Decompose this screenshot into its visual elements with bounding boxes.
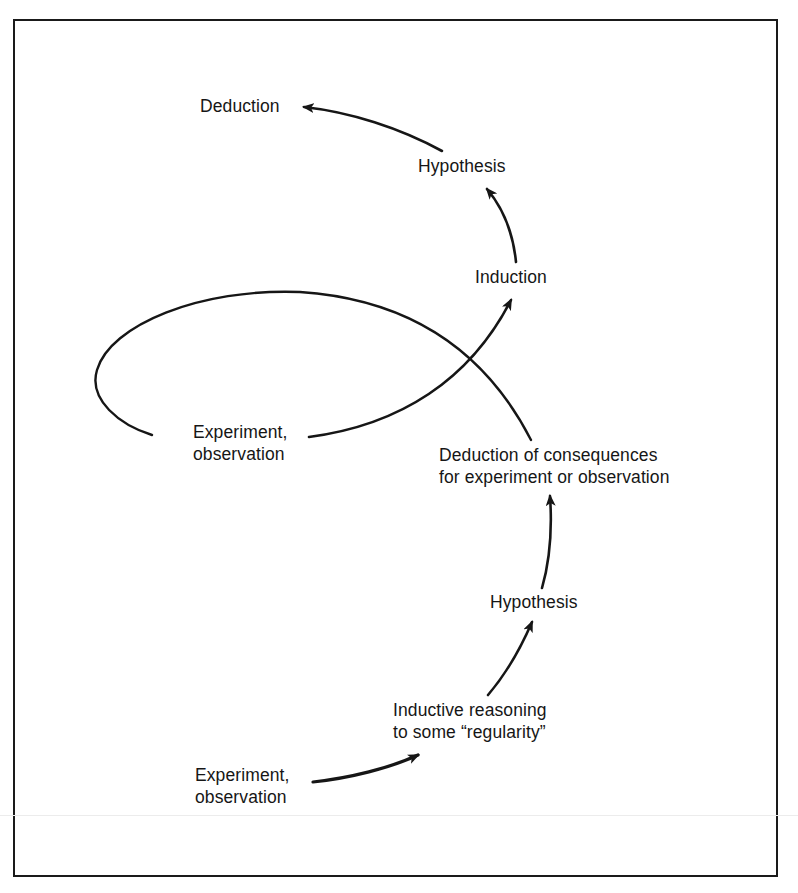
diagram-canvas (0, 0, 798, 893)
loop-deduction-to-experiment (95, 292, 531, 440)
node-label-line-2: observation (195, 786, 289, 808)
node-label: Hypothesis (490, 591, 578, 613)
node-label-line-1: Experiment, (195, 764, 289, 786)
arrow-experiment-to-inductive (313, 755, 418, 782)
node-label-line-1: Experiment, (193, 421, 287, 443)
node-label-line-2: for experiment or observation (439, 466, 670, 488)
node-label: Deduction (200, 95, 280, 117)
node-inductive-reasoning: Inductive reasoning to some “regularity” (393, 699, 547, 743)
node-hypothesis-low: Hypothesis (490, 591, 578, 613)
node-label-line-1: Deduction of consequences (439, 444, 670, 466)
arrow-induction-to-hypothesis (487, 189, 516, 262)
arrow-hypothesis-to-deduction-consequences (542, 496, 551, 588)
node-label-line-1: Inductive reasoning (393, 699, 547, 721)
node-label-line-2: to some “regularity” (393, 721, 547, 743)
node-deduction-consequences: Deduction of consequences for experiment… (439, 444, 670, 488)
node-label: Induction (475, 266, 547, 288)
arrow-hypothesis-to-deduction (304, 107, 442, 151)
node-deduction-top: Deduction (200, 95, 280, 117)
node-hypothesis-top: Hypothesis (418, 155, 506, 177)
node-experiment-low: Experiment, observation (195, 764, 289, 808)
node-experiment-mid: Experiment, observation (193, 421, 287, 465)
node-induction-top: Induction (475, 266, 547, 288)
node-label: Hypothesis (418, 155, 506, 177)
node-label-line-2: observation (193, 443, 287, 465)
arrow-inductive-to-hypothesis (488, 622, 532, 695)
